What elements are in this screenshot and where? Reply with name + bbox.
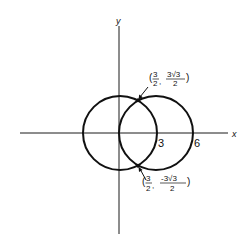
svg-text:2: 2 (170, 184, 175, 193)
svg-text:-3√3: -3√3 (161, 174, 178, 183)
svg-text:2: 2 (153, 79, 158, 88)
svg-text:2: 2 (146, 184, 151, 193)
svg-text:3: 3 (146, 174, 151, 183)
svg-text:): ) (186, 72, 189, 83)
svg-text:): ) (187, 176, 190, 187)
svg-text:2: 2 (173, 79, 178, 88)
lower-point-label: ( 3 2 , -3√3 2 ) (142, 174, 190, 193)
tick-label-3: 3 (158, 137, 164, 149)
svg-text:,: , (159, 77, 161, 86)
y-axis-label: y (115, 16, 121, 26)
tick-label-6: 6 (194, 137, 200, 149)
diagram-canvas: x y 3 6 ( 3 2 , 3√3 2 ) ( 3 2 , -3√3 2 (0, 0, 252, 246)
upper-point-label: ( 3 2 , 3√3 2 ) (149, 70, 189, 88)
svg-text:3: 3 (153, 70, 158, 79)
svg-text:,: , (152, 181, 154, 190)
x-axis-label: x (231, 129, 237, 139)
svg-text:3√3: 3√3 (167, 70, 181, 79)
